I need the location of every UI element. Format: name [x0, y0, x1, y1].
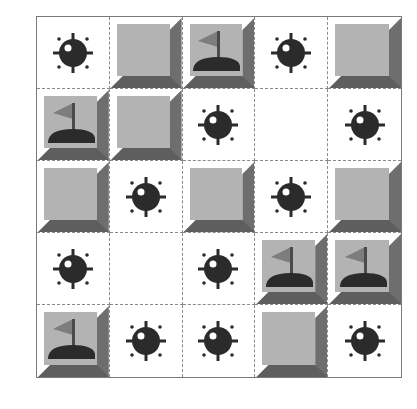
- cell-r5-c5-mine[interactable]: [328, 305, 401, 377]
- tile-bev-r: [315, 234, 327, 304]
- cell-r4-c5-flag[interactable]: [328, 233, 401, 305]
- cell-r3-c2-mine[interactable]: [110, 161, 183, 233]
- tile-bev-r: [97, 306, 109, 377]
- tile-bev-b: [111, 148, 182, 160]
- cell-r5-c1-flag[interactable]: [37, 305, 110, 377]
- cell-r2-c2-covered[interactable]: [110, 89, 183, 161]
- cell-r2-c3-mine[interactable]: [183, 89, 256, 161]
- covered-tile: [111, 18, 182, 88]
- flag-icon: [190, 27, 240, 73]
- mine-icon: [196, 319, 240, 363]
- cell-r1-c5-covered[interactable]: [328, 17, 401, 89]
- tile-bev-b: [184, 220, 255, 232]
- tile-bev-b: [111, 76, 182, 88]
- mine-icon: [51, 31, 95, 75]
- tile-face: [335, 168, 389, 220]
- mine-icon: [343, 103, 387, 147]
- mine-icon: [269, 31, 313, 75]
- cell-r4-c2-empty[interactable]: [110, 233, 183, 305]
- cell-r5-c2-mine[interactable]: [110, 305, 183, 377]
- tile-bev-r: [389, 162, 401, 232]
- tile-bev-b: [256, 292, 327, 304]
- flag-icon: [45, 315, 95, 361]
- tile-bev-r: [170, 90, 182, 160]
- tile-bev-b: [38, 220, 109, 232]
- minesweeper-board: [36, 16, 402, 378]
- tile-bev-r: [242, 162, 254, 232]
- tile-bev-r: [170, 18, 182, 88]
- tile-bev-b: [184, 76, 255, 88]
- tile-face: [190, 168, 243, 220]
- tile-bev-b: [38, 365, 109, 377]
- tile-bev-b: [329, 76, 401, 88]
- flag-icon: [263, 243, 313, 289]
- tile-bev-b: [329, 292, 401, 304]
- mine-icon: [343, 319, 387, 363]
- mine-icon: [196, 103, 240, 147]
- cell-r5-c4-covered[interactable]: [255, 305, 328, 377]
- cell-r1-c2-covered[interactable]: [110, 17, 183, 89]
- cell-r1-c3-flag[interactable]: [183, 17, 256, 89]
- mine-icon: [51, 247, 95, 291]
- covered-tile: [329, 18, 401, 88]
- tile-face: [335, 24, 389, 76]
- cell-r4-c3-mine[interactable]: [183, 233, 256, 305]
- cell-r1-c1-mine[interactable]: [37, 17, 110, 89]
- tile-bev-r: [315, 306, 327, 377]
- flag-icon: [45, 99, 95, 145]
- mine-icon: [124, 175, 168, 219]
- mine-icon: [124, 319, 168, 363]
- cell-r3-c3-covered[interactable]: [183, 161, 256, 233]
- cell-r5-c3-mine[interactable]: [183, 305, 256, 377]
- cell-r2-c5-mine[interactable]: [328, 89, 401, 161]
- cell-r1-c4-mine[interactable]: [255, 17, 328, 89]
- cell-r3-c1-covered[interactable]: [37, 161, 110, 233]
- covered-tile: [111, 90, 182, 160]
- tile-bev-r: [97, 90, 109, 160]
- cell-r4-c1-mine[interactable]: [37, 233, 110, 305]
- tile-face: [117, 96, 170, 148]
- tile-face: [117, 24, 170, 76]
- covered-tile: [184, 162, 255, 232]
- cell-r2-c4-empty[interactable]: [255, 89, 328, 161]
- cell-r3-c4-mine[interactable]: [255, 161, 328, 233]
- covered-tile: [329, 162, 401, 232]
- cell-r2-c1-flag[interactable]: [37, 89, 110, 161]
- covered-tile: [256, 306, 327, 377]
- tile-bev-r: [389, 18, 401, 88]
- tile-bev-r: [97, 162, 109, 232]
- tile-bev-b: [256, 365, 327, 377]
- tile-bev-b: [329, 220, 401, 232]
- mine-icon: [269, 175, 313, 219]
- mine-icon: [196, 247, 240, 291]
- tile-bev-r: [389, 234, 401, 304]
- flag-icon: [337, 243, 387, 289]
- tile-face: [262, 312, 315, 365]
- cell-r3-c5-covered[interactable]: [328, 161, 401, 233]
- tile-bev-r: [242, 18, 254, 88]
- covered-tile: [38, 162, 109, 232]
- tile-bev-b: [38, 148, 109, 160]
- tile-face: [44, 168, 97, 220]
- cell-r4-c4-flag[interactable]: [255, 233, 328, 305]
